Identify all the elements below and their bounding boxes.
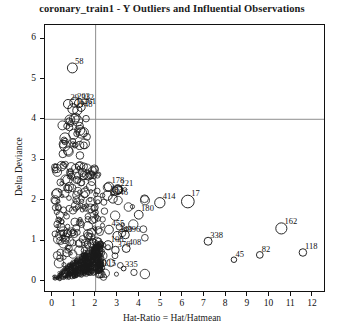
scatter-plot-figure: coronary_train1 - Y Outliers and Influen… [0, 0, 344, 335]
y-axis-tick-label: 1 [16, 234, 36, 244]
point-label-45: 45 [235, 249, 244, 259]
scatter-canvas: 5829203312167148261178221133146180414174… [45, 25, 324, 291]
data-point [114, 196, 122, 204]
data-point [76, 152, 84, 160]
x-axis-tick [94, 292, 95, 296]
x-axis-tick [51, 292, 52, 296]
x-axis-tick-label: 12 [298, 298, 326, 308]
point-label-338: 338 [210, 230, 223, 240]
data-point [83, 115, 90, 122]
x-axis-tick [116, 292, 117, 296]
point-label-115: 115 [104, 258, 116, 268]
y-axis-tick-label: 6 [16, 32, 36, 42]
y-axis-tick-label: 4 [16, 113, 36, 123]
data-point [114, 272, 118, 276]
point-label-118: 118 [305, 241, 317, 251]
data-point [117, 262, 123, 268]
data-point [101, 208, 108, 215]
page-title: coronary_train1 - Y Outliers and Influen… [0, 3, 344, 14]
data-point [131, 269, 137, 275]
point-label-82: 82 [262, 244, 271, 254]
point-label-146: 146 [115, 187, 128, 197]
x-axis-tick [160, 292, 161, 296]
point-label-58: 58 [75, 56, 84, 66]
x-axis-tick [203, 292, 204, 296]
y-axis-tick [40, 159, 44, 160]
point-label-261: 261 [83, 96, 96, 106]
x-axis-tick [268, 292, 269, 296]
data-point [88, 198, 92, 202]
x-axis-title: Hat-Ratio = Hat/Hatmean [0, 313, 344, 323]
y-axis-tick [40, 280, 44, 281]
y-axis-tick [40, 199, 44, 200]
data-point [142, 234, 149, 241]
x-axis-tick [225, 292, 226, 296]
point-label-162: 162 [284, 216, 297, 226]
x-axis-tick [290, 292, 291, 296]
point-label-414: 414 [163, 191, 177, 201]
y-axis-tick [40, 38, 44, 39]
point-label-335: 335 [125, 259, 138, 269]
y-axis-title: Delta Deviance [14, 137, 24, 196]
point-label-180: 180 [141, 203, 154, 213]
data-point [64, 214, 70, 220]
data-point [96, 228, 103, 235]
y-axis-tick [40, 78, 44, 79]
y-axis-tick [40, 118, 44, 119]
x-axis-tick [181, 292, 182, 296]
data-point [140, 269, 149, 278]
x-axis-tick [73, 292, 74, 296]
data-point [81, 191, 87, 197]
data-point [79, 181, 84, 186]
y-axis-tick [40, 240, 44, 241]
x-axis-tick [246, 292, 247, 296]
data-point [67, 163, 76, 172]
point-label-17: 17 [191, 188, 200, 198]
point-label-408: 408 [128, 237, 141, 247]
y-axis-tick-label: 0 [16, 275, 36, 285]
data-point [67, 196, 72, 201]
x-axis-tick [311, 292, 312, 296]
data-point [140, 226, 147, 233]
y-axis-tick-label: 5 [16, 73, 36, 83]
x-axis-tick [138, 292, 139, 296]
plot-area: 5829203312167148261178221133146180414174… [44, 24, 325, 292]
data-point [100, 223, 104, 227]
data-point [124, 203, 133, 212]
